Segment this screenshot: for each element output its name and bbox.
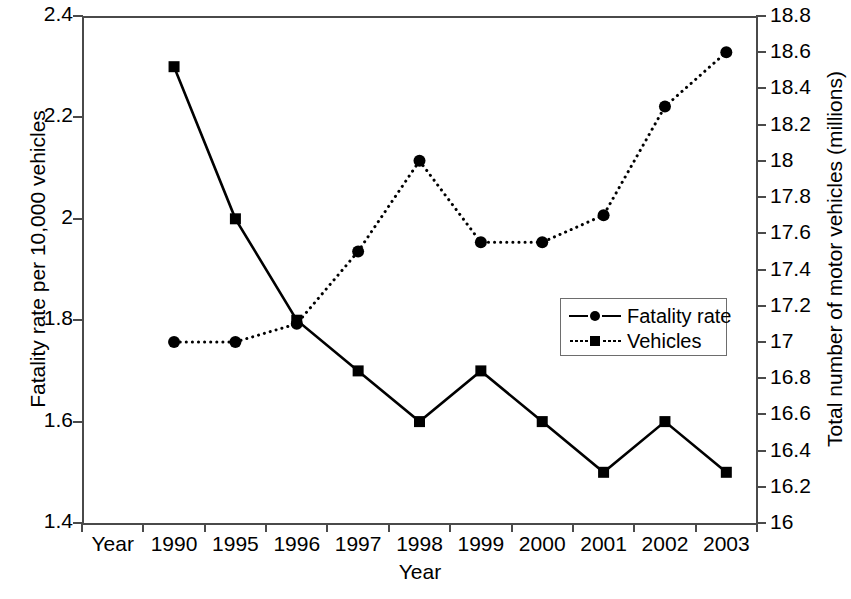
right-axis-tick (756, 87, 766, 89)
series-line (174, 67, 726, 473)
data-point-circle: Vehicles 2000: 17.55 (536, 236, 548, 248)
x-axis-title: Year (82, 560, 758, 584)
x-axis-tick (388, 523, 390, 532)
legend-item-fatality-rate[interactable]: Fatality rate (569, 303, 720, 328)
right-axis-tick-label: 17.4 (770, 257, 811, 281)
data-point-square: Fatality rate 1999: 1.7 (475, 365, 486, 376)
right-axis-tick-label: 16 (770, 510, 793, 534)
x-axis-tick-label: Year (91, 532, 133, 556)
data-point-circle: Vehicles 1990: 17 (168, 336, 180, 348)
data-point-square: Fatality rate 2000: 1.6 (537, 416, 548, 427)
x-axis-tick-label: 1997 (335, 532, 382, 556)
data-point-circle: Vehicles 1997: 17.5 (352, 245, 364, 257)
right-axis-tick (756, 232, 766, 234)
x-axis-tick-label: 2003 (703, 532, 750, 556)
data-point-circle: Vehicles 1999: 17.55 (475, 236, 487, 248)
series-canvas: Fatality rate 1990: 2.3Fatality rate 199… (82, 16, 757, 523)
right-axis-title: Total number of motor vehicles (millions… (823, 0, 847, 519)
x-axis-tick-label: 2001 (580, 532, 627, 556)
x-axis-tick (142, 523, 144, 532)
data-point-square: Fatality rate 1997: 1.7 (353, 365, 364, 376)
right-axis-tick-label: 18.4 (770, 75, 811, 99)
left-axis-tick-label: 2 (61, 205, 73, 229)
x-axis-tick-label: 1996 (273, 532, 320, 556)
left-axis-tick-label: 1.6 (44, 408, 73, 432)
data-point-square: Fatality rate 2003: 1.5 (721, 467, 732, 478)
right-axis-tick (756, 160, 766, 162)
x-axis-tick (204, 523, 206, 532)
right-axis-tick (756, 486, 766, 488)
right-axis-tick (756, 196, 766, 198)
data-point-square: Fatality rate 1998: 1.6 (414, 416, 425, 427)
data-point-circle: Vehicles 1995: 17 (229, 336, 241, 348)
right-axis-tick-label: 16.8 (770, 365, 811, 389)
right-axis-tick (756, 124, 766, 126)
right-axis-tick (756, 51, 766, 53)
x-axis-tick-label: 2002 (642, 532, 689, 556)
left-axis-tick-label: 1.4 (44, 509, 73, 533)
x-axis-tick (633, 523, 635, 532)
data-point-square: Fatality rate 1990: 2.3 (169, 61, 180, 72)
right-axis-tick (756, 450, 766, 452)
legend-item-vehicles[interactable]: Vehicles (569, 328, 720, 353)
right-axis-tick (756, 377, 766, 379)
left-axis-title: Fatality rate per 10,000 vehicles (26, 0, 50, 519)
x-axis-tick-label: 1998 (396, 532, 443, 556)
left-axis-tick-label: 2.2 (44, 103, 73, 127)
right-axis-tick-label: 18.2 (770, 112, 811, 136)
data-point-square: Fatality rate 2001: 1.5 (598, 467, 609, 478)
plot-area: Fatality rate 1990: 2.3Fatality rate 199… (82, 16, 757, 523)
series-fatality-rate: Fatality rate 1990: 2.3Fatality rate 199… (169, 61, 732, 478)
data-point-circle: Vehicles 1996: 17.1 (291, 318, 303, 330)
right-axis-tick-label: 16.2 (770, 474, 811, 498)
bottom-axis-line (82, 523, 758, 525)
data-point-circle: Vehicles 2003: 18.6 (720, 46, 732, 58)
x-axis-tick (265, 523, 267, 532)
right-axis-tick-label: 17.6 (770, 220, 811, 244)
left-axis-tick-label: 1.8 (44, 306, 73, 330)
x-axis-tick-label: 1999 (458, 532, 505, 556)
x-axis-tick (449, 523, 451, 532)
right-axis-tick-label: 16.4 (770, 438, 811, 462)
data-point-square: Fatality rate 2002: 1.6 (659, 416, 670, 427)
x-axis-tick-label: 1990 (151, 532, 198, 556)
right-axis-tick-label: 17.2 (770, 293, 811, 317)
right-axis-tick-label: 18.6 (770, 39, 811, 63)
legend-label: Fatality rate (627, 306, 731, 326)
square-marker-icon (590, 336, 600, 346)
legend-label: Vehicles (627, 331, 702, 351)
right-axis-tick (756, 269, 766, 271)
x-axis-tick (81, 523, 83, 532)
data-point-circle: Vehicles 2001: 17.7 (598, 209, 610, 221)
circle-marker-icon (590, 311, 600, 321)
chart-figure: Fatality rate per 10,000 vehicles Total … (0, 0, 851, 599)
right-axis-tick (756, 413, 766, 415)
right-axis-tick-label: 18 (770, 148, 793, 172)
right-axis-tick-label: 17 (770, 329, 793, 353)
legend-swatch-dotted-square (569, 334, 621, 348)
right-axis-tick-label: 18.8 (770, 3, 811, 27)
data-point-square: Fatality rate 1995: 2 (230, 213, 241, 224)
x-axis-tick-label: 1995 (212, 532, 259, 556)
x-axis-tick (572, 523, 574, 532)
legend: Fatality rate Vehicles (560, 298, 727, 356)
x-axis-tick (695, 523, 697, 532)
x-axis-tick-label: 2000 (519, 532, 566, 556)
right-axis-tick (756, 15, 766, 17)
right-axis-tick-label: 17.8 (770, 184, 811, 208)
left-axis-tick-label: 2.4 (44, 2, 73, 26)
legend-swatch-solid-circle (569, 309, 621, 323)
data-point-circle: Vehicles 1998: 18 (414, 155, 426, 167)
data-point-circle: Vehicles 2002: 18.3 (659, 101, 671, 113)
right-axis-tick (756, 341, 766, 343)
right-axis-tick-label: 16.6 (770, 401, 811, 425)
x-axis-tick (756, 523, 758, 532)
x-axis-tick (326, 523, 328, 532)
right-axis-tick (756, 305, 766, 307)
x-axis-tick (511, 523, 513, 532)
